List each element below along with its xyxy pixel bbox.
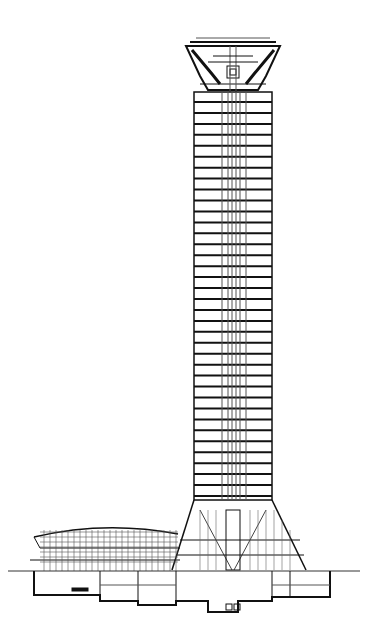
podium <box>30 528 180 571</box>
section-svg <box>0 0 387 642</box>
crown <box>186 38 280 92</box>
base-cone <box>172 500 306 570</box>
architectural-section-drawing: Tower section drawing <box>0 0 387 642</box>
basement <box>34 571 330 612</box>
tower-shaft <box>194 92 272 500</box>
